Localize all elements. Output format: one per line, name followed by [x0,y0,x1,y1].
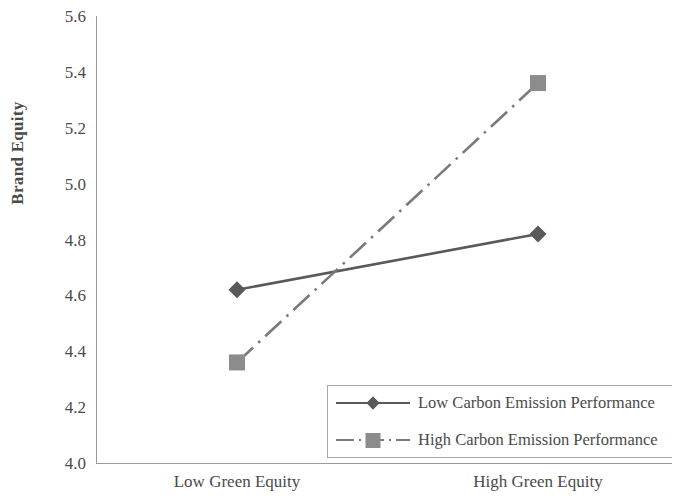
legend-label-low-carbon-emission-performance: Low Carbon Emission Performance [418,393,655,413]
series-line-0 [237,234,538,290]
legend-marker-diamond-solid-line [334,394,412,412]
legend-label-high-carbon-emission-performance: High Carbon Emission Performance [418,430,658,450]
x-axis-tick-label: Low Green Equity [117,472,357,492]
data-point-square [530,75,546,91]
interaction-plot-chart: Brand Equity 5.65.45.25.04.84.64.44.24.0… [0,0,678,504]
x-axis-tick-label: High Green Equity [418,472,658,492]
legend-item-low-carbon-emission-performance: Low Carbon Emission Performance [334,388,655,418]
legend-marker-square-dashdot-line [334,431,412,449]
legend-item-high-carbon-emission-performance: High Carbon Emission Performance [334,425,658,455]
data-point-square [229,354,245,370]
series-line-1 [237,83,538,362]
legend: Low Carbon Emission Performance High Car… [327,385,672,458]
data-point-diamond [530,225,547,242]
data-point-diamond [229,281,246,298]
